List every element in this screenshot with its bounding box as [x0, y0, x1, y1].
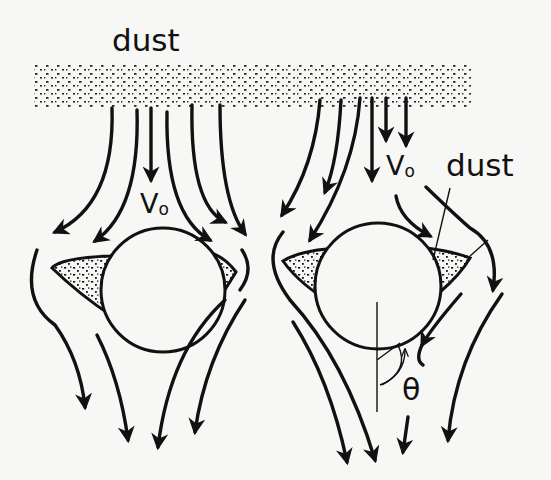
velocity-label-right: Vo: [386, 152, 415, 180]
dust-label-top: dust: [112, 25, 180, 56]
dust-label-right: dust: [446, 150, 514, 181]
cylinder-right: [315, 223, 441, 349]
diagram-canvas: dust Vo Vo dust θ: [0, 0, 551, 480]
left-panel: [31, 105, 248, 447]
cylinder-left: [101, 228, 225, 352]
velocity-label-left: Vo: [140, 190, 169, 218]
flow-diagram: [0, 0, 551, 480]
theta-label: θ: [402, 375, 420, 405]
